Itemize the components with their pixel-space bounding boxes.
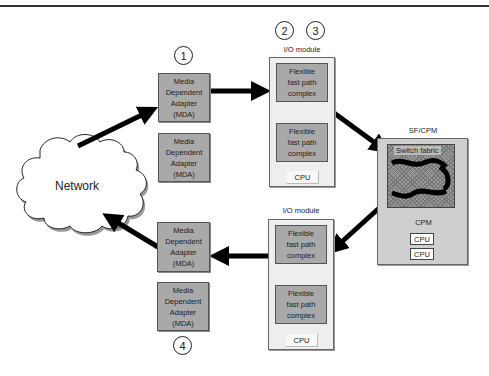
arrow-mda-to-network [110,218,158,247]
io-cpu: CPU [286,170,319,184]
fast-path-complex: Flexible fast path complex [275,285,327,324]
fast-path-complex: Flexible fast path complex [276,123,328,162]
cpm-cpu: CPU [410,233,434,245]
fast-path-complex: Flexible fast path complex [276,63,328,102]
io-module-ingress-title: I/O module [269,45,335,54]
mda-ingress-2: Media Dependent Adapter (MDA) [158,133,210,182]
sfcpm-module: Switch fabric CPM CPU CPU [377,138,468,265]
diagram-canvas: Network 1 2 3 4 Media Dependent Adapter … [0,0,489,376]
cpm-cpu: CPU [410,248,434,260]
cpm-label: CPM [378,218,469,227]
network-label: Network [50,179,104,193]
io-module-ingress: Flexible fast path complex Flexible fast… [269,57,335,187]
io-module-egress-title: I/O module [268,206,334,215]
fast-path-complex: Flexible fast path complex [275,225,327,264]
sfcpm-title: SF/CPM [377,126,469,135]
switch-fabric: Switch fabric [387,144,455,208]
step-4-marker: 4 [173,336,192,355]
step-3-marker: 3 [306,21,325,40]
fabric-path-icon [388,145,456,209]
io-module-egress: Flexible fast path complex Flexible fast… [268,219,334,350]
step-1-marker: 1 [174,46,193,65]
mda-egress-1: Media Dependent Adapter (MDA) [157,222,210,272]
mda-ingress-1: Media Dependent Adapter (MDA) [158,73,210,122]
io-cpu: CPU [285,333,318,347]
mda-egress-2: Media Dependent Adapter (MDA) [157,282,209,331]
step-2-marker: 2 [275,21,294,40]
